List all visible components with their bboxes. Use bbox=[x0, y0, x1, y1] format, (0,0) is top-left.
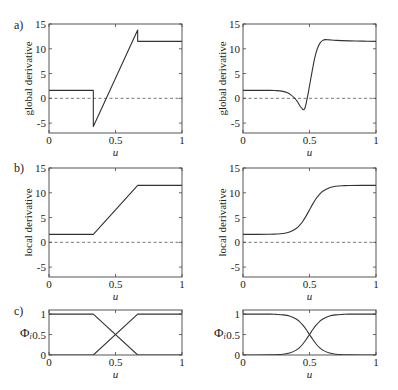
x-tick-label: 1 bbox=[179, 134, 185, 146]
phi-symbol: Φ bbox=[214, 325, 224, 340]
y-axis-label-c-left: Φi bbox=[20, 325, 32, 341]
x-tick-label: 0.5 bbox=[303, 134, 317, 146]
data-line bbox=[49, 185, 182, 234]
y-tick-label: 5 bbox=[235, 212, 241, 224]
y-tick-label: 5 bbox=[235, 68, 241, 80]
axes-box bbox=[243, 24, 376, 133]
x-axis-label-c-left: u bbox=[113, 368, 119, 380]
plot-panels: -505101500.51-505101500.51-505101500.51-… bbox=[32, 18, 379, 368]
x-tick-label: 0 bbox=[240, 356, 246, 368]
y-tick-label: -5 bbox=[231, 117, 241, 129]
y-tick-label: 10 bbox=[229, 43, 241, 55]
y-tick-label: 10 bbox=[229, 187, 241, 199]
y-tick-label: 0 bbox=[41, 92, 47, 104]
axes-box bbox=[243, 310, 376, 355]
y-tick-label: 0 bbox=[235, 236, 241, 248]
x-axis-label-b-right: u bbox=[307, 290, 313, 302]
x-tick-label: 1 bbox=[373, 134, 379, 146]
x-tick-label: 0 bbox=[240, 278, 246, 290]
data-line bbox=[49, 30, 182, 127]
y-tick-label: 15 bbox=[229, 18, 241, 30]
data-line bbox=[243, 314, 376, 355]
panel-label-b: b) bbox=[14, 161, 24, 175]
figure: a) b) c) global derivative global deriva… bbox=[0, 0, 398, 390]
y-tick-label: 0 bbox=[235, 92, 241, 104]
y-axis-label-a-left: global derivative bbox=[22, 41, 34, 115]
x-axis-label-c-right: u bbox=[307, 368, 313, 380]
panel-label-a: a) bbox=[14, 18, 23, 32]
x-tick-label: 0 bbox=[46, 278, 52, 290]
data-line bbox=[243, 185, 376, 234]
y-tick-label: 0.5 bbox=[226, 329, 240, 341]
y-tick-label: 1 bbox=[41, 308, 47, 320]
x-tick-label: 0 bbox=[240, 134, 246, 146]
panel-c-right: 00.5100.51 bbox=[226, 308, 379, 368]
data-line bbox=[243, 40, 376, 110]
y-axis-label-a-right: global derivative bbox=[216, 41, 228, 115]
phi-symbol: Φ bbox=[20, 325, 30, 340]
x-tick-label: 1 bbox=[373, 278, 379, 290]
x-tick-label: 0.5 bbox=[109, 134, 123, 146]
y-tick-label: 5 bbox=[41, 212, 47, 224]
x-tick-label: 0 bbox=[46, 134, 52, 146]
x-tick-label: 1 bbox=[179, 356, 185, 368]
y-tick-label: 1 bbox=[235, 308, 241, 320]
y-tick-label: 0.5 bbox=[32, 329, 46, 341]
x-tick-label: 1 bbox=[373, 356, 379, 368]
x-tick-label: 1 bbox=[179, 278, 185, 290]
x-axis-label-a-left: u bbox=[113, 146, 119, 158]
y-tick-label: -5 bbox=[37, 261, 47, 273]
y-tick-label: -5 bbox=[231, 261, 241, 273]
y-tick-label: -5 bbox=[37, 117, 47, 129]
y-tick-label: 15 bbox=[35, 162, 47, 174]
y-tick-label: 0 bbox=[41, 236, 47, 248]
y-axis-label-b-right: local derivative bbox=[216, 188, 228, 256]
panel-b-right: -505101500.51 bbox=[229, 162, 379, 290]
axes-box bbox=[243, 168, 376, 277]
y-tick-label: 15 bbox=[229, 162, 241, 174]
axes-box bbox=[49, 168, 182, 277]
y-axis-label-b-left: local derivative bbox=[22, 188, 34, 256]
x-tick-label: 0.5 bbox=[109, 356, 123, 368]
y-tick-label: 10 bbox=[35, 187, 47, 199]
x-tick-label: 0.5 bbox=[303, 356, 317, 368]
x-axis-label-b-left: u bbox=[113, 290, 119, 302]
x-tick-label: 0.5 bbox=[303, 278, 317, 290]
x-axis-label-a-right: u bbox=[307, 146, 313, 158]
x-tick-label: 0 bbox=[46, 356, 52, 368]
panel-label-c: c) bbox=[14, 304, 23, 318]
x-tick-label: 0.5 bbox=[109, 278, 123, 290]
panel-b-left: -505101500.51 bbox=[35, 162, 185, 290]
panel-a-right: -505101500.51 bbox=[229, 18, 379, 146]
y-tick-label: 15 bbox=[35, 18, 47, 30]
data-line bbox=[49, 314, 182, 355]
y-axis-label-c-right: Φi bbox=[214, 325, 226, 341]
axes-box bbox=[49, 310, 182, 355]
panel-a-left: -505101500.51 bbox=[35, 18, 185, 146]
y-tick-label: 10 bbox=[35, 43, 47, 55]
panel-c-left: 00.5100.51 bbox=[32, 308, 185, 368]
y-tick-label: 5 bbox=[41, 68, 47, 80]
